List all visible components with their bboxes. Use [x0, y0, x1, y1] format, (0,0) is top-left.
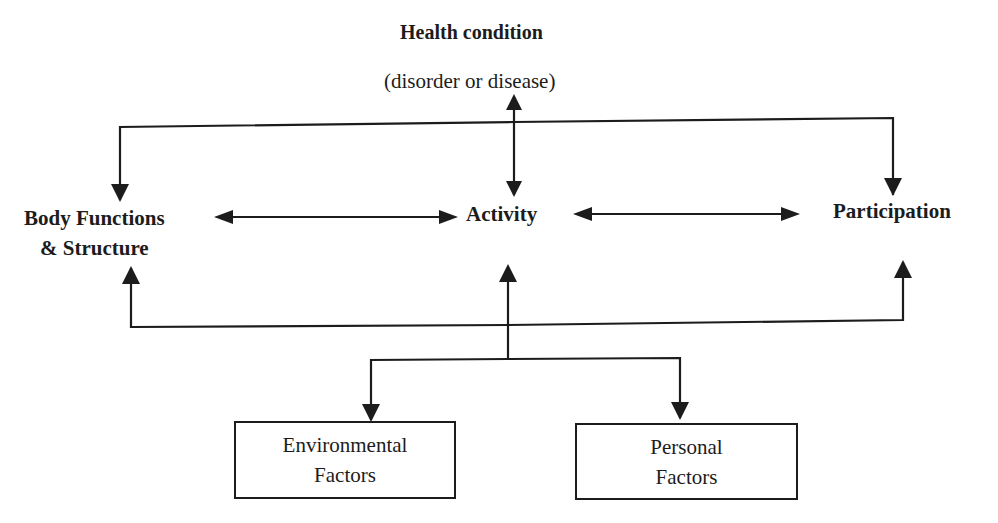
- arrowhead-left-body: [214, 210, 233, 224]
- node-participation: Participation: [833, 196, 983, 226]
- personal-factors-line1: Personal: [650, 432, 722, 462]
- body-functions-line2: & Structure: [24, 233, 214, 263]
- environmental-factors-line2: Factors: [314, 460, 376, 490]
- arrowhead-down-environmental: [362, 404, 380, 422]
- health-condition-subtitle: (disorder or disease): [384, 66, 555, 96]
- node-personal-factors: Personal Factors: [575, 423, 798, 500]
- arrowhead-right-activity: [439, 210, 458, 224]
- personal-factors-line2: Factors: [656, 462, 718, 492]
- icf-diagram: Health condition (disorder or disease) B…: [0, 0, 998, 523]
- arrowhead-up-body: [122, 266, 140, 284]
- node-environmental-factors: Environmental Factors: [234, 421, 456, 499]
- arrowhead-left-activity: [573, 207, 592, 221]
- arrowhead-down-body: [111, 184, 129, 202]
- health-condition-title: Health condition: [400, 17, 543, 47]
- top-bracket-line: [120, 118, 893, 200]
- arrowhead-down-activity: [506, 181, 522, 197]
- node-activity: Activity: [466, 199, 566, 229]
- arrowhead-up-participation: [894, 260, 912, 278]
- arrowhead-down-participation: [884, 178, 902, 196]
- body-functions-line1: Body Functions: [24, 203, 214, 233]
- arrowhead-up-activity: [499, 264, 517, 282]
- node-body-functions: Body Functions & Structure: [24, 203, 214, 263]
- arrowhead-up-health: [506, 94, 522, 110]
- bottom-bracket-line: [131, 262, 903, 327]
- arrowhead-down-personal: [671, 402, 689, 420]
- context-split-line: [371, 358, 680, 420]
- environmental-factors-line1: Environmental: [283, 430, 408, 460]
- arrowhead-right-participation: [781, 207, 800, 221]
